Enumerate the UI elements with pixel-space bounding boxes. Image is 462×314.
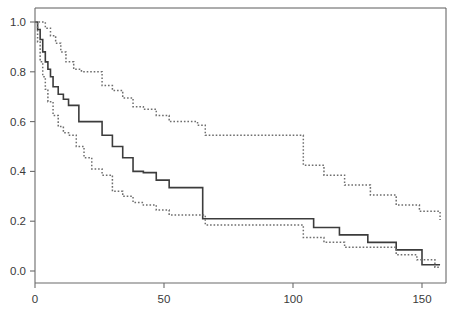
x-tick-label: 50 — [158, 293, 171, 305]
y-tick-label: 1.0 — [10, 16, 26, 28]
y-tick-label: 0.6 — [10, 116, 26, 128]
data-series-group — [35, 22, 440, 267]
y-tick-label: 0.2 — [10, 215, 26, 227]
series-lower-confidence-limit — [35, 22, 440, 267]
y-tick-label: 0.0 — [10, 265, 26, 277]
y-tick-label: 0.8 — [10, 66, 26, 78]
x-tick-label: 100 — [283, 293, 302, 305]
x-tick-label: 0 — [32, 293, 38, 305]
y-tick-label: 0.4 — [10, 165, 27, 177]
kaplan-meier-plot: 0.00.20.40.60.81.0 050100150 — [0, 0, 462, 314]
x-tick-label: 150 — [412, 293, 431, 305]
series-survival-estimate — [35, 22, 440, 265]
x-axis-ticks: 050100150 — [32, 283, 432, 305]
survival-chart-figure: 0.00.20.40.60.81.0 050100150 — [0, 0, 462, 314]
y-axis-ticks: 0.00.20.40.60.81.0 — [10, 16, 35, 277]
